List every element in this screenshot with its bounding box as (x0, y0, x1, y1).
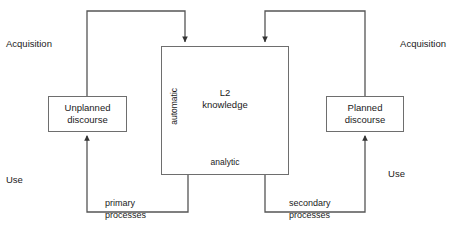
label-acquisition-right: Acquisition (400, 38, 446, 49)
edge-secondary-line2: processes (289, 209, 331, 221)
node-planned-line2: discourse (345, 114, 386, 126)
edge-secondary-line1: secondary (289, 197, 331, 209)
edge-primary-line1: primary (105, 197, 146, 209)
edge-label-secondary-processes: secondary processes (289, 197, 331, 221)
axis-label-analytic: analytic (162, 157, 288, 168)
node-l2-title: L2 knowledge (162, 87, 288, 112)
node-l2-knowledge: L2 knowledge automatic analytic (161, 46, 289, 175)
edge-primary-line2: processes (105, 209, 146, 221)
node-planned-line1: Planned (345, 102, 386, 114)
node-planned-discourse: Planned discourse (326, 96, 404, 132)
node-unplanned-line2: discourse (65, 114, 111, 126)
label-use-right: Use (388, 168, 405, 179)
node-l2-line1: L2 (162, 87, 288, 99)
node-unplanned-discourse: Unplanned discourse (48, 96, 127, 132)
diagram-canvas: Unplanned discourse L2 knowledge automat… (0, 0, 450, 235)
edge-label-primary-processes: primary processes (105, 197, 146, 221)
node-unplanned-line1: Unplanned (65, 102, 111, 114)
node-l2-line2: knowledge (162, 99, 288, 111)
axis-label-automatic: automatic (169, 75, 180, 137)
label-use-left: Use (6, 174, 23, 185)
label-acquisition-left: Acquisition (6, 38, 52, 49)
